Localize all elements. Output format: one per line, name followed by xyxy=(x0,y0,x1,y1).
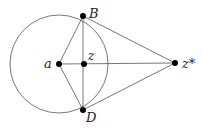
label-B: B xyxy=(88,6,99,21)
point-zstar xyxy=(172,60,178,66)
segment-a-D xyxy=(59,64,83,110)
geometry-figure: a z B D z* xyxy=(0,0,203,128)
segment-B-zstar xyxy=(83,16,175,63)
segment-D-zstar xyxy=(83,63,175,110)
label-D: D xyxy=(85,110,97,125)
diagram-canvas: a z B D z* xyxy=(0,0,203,128)
segments xyxy=(59,16,175,110)
point-z xyxy=(81,61,87,67)
label-a: a xyxy=(44,56,52,71)
point-a xyxy=(56,61,62,67)
label-zstar: z* xyxy=(181,56,196,71)
label-z: z xyxy=(87,49,95,63)
point-B xyxy=(80,13,86,19)
segment-a-B xyxy=(59,16,83,64)
segment-a-zstar xyxy=(59,63,175,64)
